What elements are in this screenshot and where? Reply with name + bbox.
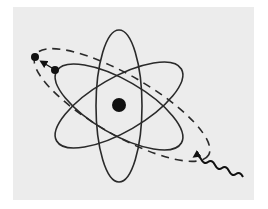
transition-arrow-icon bbox=[42, 62, 52, 68]
ground-electron bbox=[51, 66, 59, 74]
atom-diagram bbox=[0, 0, 268, 209]
photon-wave-arrow-icon bbox=[195, 155, 243, 177]
excited-electron bbox=[31, 53, 39, 61]
nucleus bbox=[112, 98, 126, 112]
